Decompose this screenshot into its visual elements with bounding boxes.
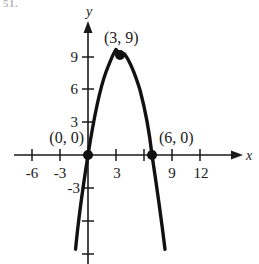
y-tick-label-3: 3	[71, 114, 79, 130]
point-root-right-marker	[147, 150, 157, 160]
parabola-curve	[76, 50, 165, 250]
x-tick-label-3: 3	[113, 165, 121, 181]
y-tick-label-9: 9	[71, 49, 79, 65]
problem-number-stub: 51.	[3, 0, 18, 8]
origin-point-label: (0, 0)	[49, 129, 84, 147]
y-tick-labels: 9 6 3 -3	[68, 49, 81, 196]
graph-canvas: -6 -3 3 9 12 9 6 3 -3 x y (3, 9) (0, 0) …	[0, 0, 259, 264]
root-right-point-label: (6, 0)	[159, 129, 194, 147]
y-tick-label-6: 6	[71, 81, 79, 97]
y-axis-label: y	[84, 4, 93, 19]
x-tick-label-neg3: -3	[54, 165, 67, 181]
marked-points-group	[83, 50, 157, 160]
y-tick-label-neg3: -3	[68, 180, 81, 196]
x-tick-label-9: 9	[168, 165, 176, 181]
x-tick-labels: -6 -3 3 9 12	[26, 165, 209, 181]
x-tick-label-12: 12	[194, 165, 209, 181]
point-vertex-marker	[115, 50, 125, 60]
x-axis-label: x	[245, 148, 253, 163]
parabola-figure: 51.	[0, 0, 259, 264]
point-origin-marker	[83, 150, 93, 160]
x-axis-arrowhead	[231, 151, 243, 160]
x-tick-label-neg6: -6	[26, 165, 39, 181]
y-axis-arrowhead	[84, 21, 93, 33]
vertex-point-label: (3, 9)	[104, 29, 139, 47]
